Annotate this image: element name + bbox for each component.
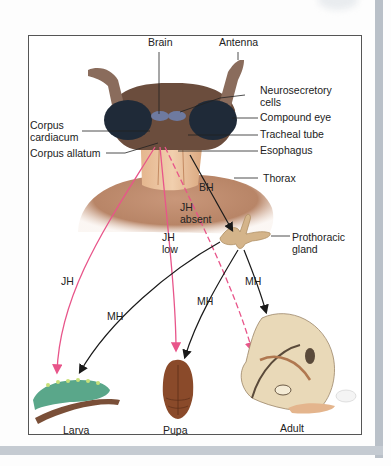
label-compound-eye: Compound eye bbox=[260, 112, 331, 124]
page-background: Brain Antenna Neurosecretory cells Compo… bbox=[0, 0, 391, 466]
label-mh-right: MH bbox=[245, 276, 261, 288]
label-corpus-allatum: Corpus allatum bbox=[30, 148, 101, 160]
label-jh-absent-line2: absent bbox=[180, 214, 212, 226]
label-jh: JH bbox=[61, 276, 74, 288]
label-esophagus: Esophagus bbox=[260, 145, 313, 157]
label-prothoracic-line2: gland bbox=[292, 244, 345, 256]
larva-illustration bbox=[33, 378, 120, 424]
label-jh-low: JH low bbox=[162, 232, 178, 255]
label-bh: BH bbox=[199, 182, 214, 194]
label-corpus-cardiacum-line2: cardiacum bbox=[30, 132, 78, 144]
label-neurosecretory-line2: cells bbox=[260, 97, 332, 109]
label-larva: Larva bbox=[63, 425, 89, 437]
adult-moth-illustration bbox=[241, 314, 356, 414]
label-pupa: Pupa bbox=[163, 425, 188, 437]
label-prothoracic-line1: Prothoracic bbox=[292, 232, 345, 244]
pupa-illustration bbox=[163, 360, 193, 419]
label-prothoracic-gland: Prothoracic gland bbox=[292, 232, 345, 255]
label-mh-center: MH bbox=[197, 296, 213, 308]
label-mh-left: MH bbox=[107, 311, 123, 323]
label-corpus-cardiacum-line1: Corpus bbox=[30, 120, 78, 132]
label-tracheal-tube: Tracheal tube bbox=[260, 129, 324, 141]
label-jh-absent: JH absent bbox=[180, 202, 212, 225]
label-thorax: Thorax bbox=[263, 173, 296, 185]
label-corpus-cardiacum: Corpus cardiacum bbox=[30, 120, 78, 143]
label-jh-low-line1: JH bbox=[162, 232, 178, 244]
label-jh-low-line2: low bbox=[162, 244, 178, 256]
label-adult: Adult bbox=[280, 423, 304, 435]
label-jh-absent-line1: JH bbox=[180, 202, 212, 214]
label-neurosecretory-line1: Neurosecretory bbox=[260, 85, 332, 97]
label-neurosecretory-cells: Neurosecretory cells bbox=[260, 85, 332, 108]
label-brain: Brain bbox=[148, 37, 173, 49]
label-antenna: Antenna bbox=[219, 37, 258, 49]
